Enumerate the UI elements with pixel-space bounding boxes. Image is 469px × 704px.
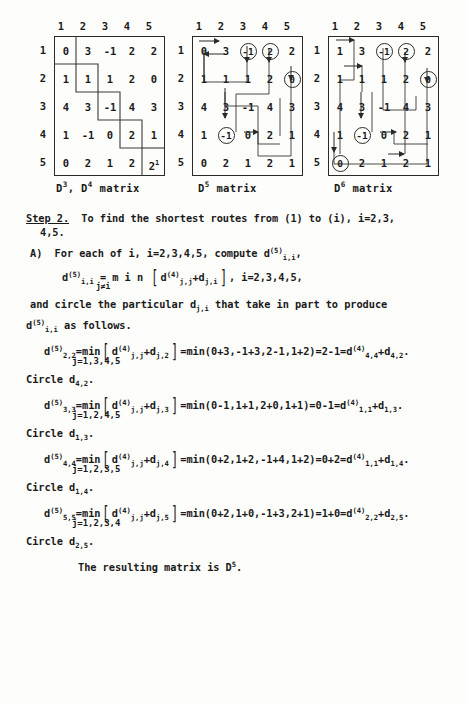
eq-result-sub: 2,2 [365,513,378,522]
circle-post: . [88,481,94,493]
eq-result-plus: +d [378,453,390,465]
matrix-cell: 3 [417,93,439,121]
matrix-cell: 3 [281,93,303,121]
matrix-grid: 0 3 -1 2 2 1 1 1 2 0 4 3 -1 4 3 1 -1 0 2… [192,36,303,176]
circle-pre: Circle d [26,535,75,547]
matrix-cell: 2 [121,37,143,65]
matrix-cell: 2 [395,149,417,177]
eq-plus-sub: j,2 [156,351,169,360]
eq-lhs-sub: i,i [81,277,94,286]
matrix-cell: -1 [99,37,121,65]
matrix-cell-circled: 2 [395,37,417,65]
follows-sub: i,i [45,325,58,334]
matrix-cell: 1 [329,37,351,65]
matrix-cell: 4 [329,93,351,121]
matrix-cell: 2 [215,149,237,177]
circle-post: that take in part to produce [209,298,387,310]
follows-sup: (5) [32,318,45,327]
matrix-cell: 2 [281,37,303,65]
matrix-figures: 1 2 3 4 5 1 2 3 4 5 0 3 -1 2 2 1 [0,18,469,208]
matrix-cell-circled: 0 [417,65,439,93]
eq-expansion: =min(0+3,-1+3,2-1,1+2)=2-1=d [180,345,352,357]
col-header: 4 [258,18,272,34]
matrix-cell: 1 [215,65,237,93]
matrix-cell: 1 [99,65,121,93]
matrix-cell: 2 [121,121,143,149]
circle-sub: 1,3 [75,433,88,442]
matrix-cell-circled: -1 [215,121,237,149]
matrix-cell: 4 [259,93,281,121]
eq-lhs-sup: (5) [50,506,63,515]
matrix-cell: 1 [281,149,303,177]
follows-text: as follows. [58,319,132,331]
matrix-cell: 2 [259,121,281,149]
matrix-cell: 0 [237,121,259,149]
col-header: 3 [236,18,250,34]
eq-plus: +d [144,453,156,465]
col-header: 5 [142,18,156,34]
matrix-cell: 2 [77,149,99,177]
matrix-cell: 1 [55,65,77,93]
follows-line: d(5)i,i as follows. [26,316,132,336]
part-a-end: , [296,247,302,259]
matrix-cell: 3 [143,93,165,121]
matrix-cell-circled: 2 [259,37,281,65]
eq-plus: +d [144,507,156,519]
matrix-cell: 1 [417,121,439,149]
eq-expansion: =min(0+2,1+2,-1+4,1+2)=0+2=d [180,453,352,465]
bracket-close-icon: ] [171,399,178,412]
eq-inner2-sub: j,i [205,277,218,286]
matrix-cell: 1 [281,121,303,149]
matrix-grid: 1 3 -1 2 2 1 1 1 2 0 4 3 -1 4 3 1 -1 0 2… [328,36,439,176]
caption-part: , D [68,182,88,194]
caption-part: matrix [346,182,393,194]
matrix-cell: 2 [143,37,165,65]
eq-tail: , i=2,3,4,5, [229,271,303,283]
eq-inner-sub: j,j [131,513,144,522]
row-header: 5 [310,155,324,169]
matrix-cell: 21 [143,149,165,177]
matrix-cell: 3 [77,93,99,121]
step-label: Step 2. [26,212,69,224]
row-header: 4 [174,127,188,141]
eq-j-range: j=1,2,3,5 [72,463,120,476]
matrix-cell: 3 [351,93,373,121]
eq-plus-sub: j,4 [156,459,169,468]
bracket-close-icon: ] [171,453,178,466]
matrix-cell: -1 [99,93,121,121]
col-header: 3 [372,18,386,34]
row-header: 5 [174,155,188,169]
row-header: 3 [36,99,50,113]
eq-plus: +d [144,345,156,357]
circle-sub: 1,4 [75,487,88,496]
matrix-cell: 2 [259,149,281,177]
matrix-grid: 0 3 -1 2 2 1 1 1 2 0 4 3 -1 4 3 1 -1 [54,36,165,176]
matrix-cell: 1 [99,149,121,177]
matrix-cell: 2 [259,65,281,93]
bracket-close-icon: ] [171,345,178,358]
matrix-cell: 3 [77,37,99,65]
col-header: 1 [192,18,206,34]
circle-sub: j,i [196,304,209,313]
eq-min-condition: j≠i [96,280,110,293]
step-line-1: To find the shortest routes from (1) to … [69,212,395,224]
matrix-cell: -1 [237,93,259,121]
eq-period: . [403,345,409,357]
matrix-cell-circled: 0 [329,149,351,177]
circle-result-line: Circle d1,3. [26,427,94,444]
eq-result-plus-sub: 2,5 [390,513,403,522]
eq-plus-sub: j,3 [156,405,169,414]
eq-inner-sup: (4) [118,398,131,407]
eq-expansion: =min(0+2,1+0,-1+3,2+1)=1+0=d [180,507,352,519]
circle-pre: and circle the particular d [30,298,196,310]
eq-inner-sup: (4) [167,270,180,279]
col-header: 1 [54,18,68,34]
eq-result-plus: +d [378,507,390,519]
col-header: 3 [98,18,112,34]
matrix-cell: 1 [193,121,215,149]
circle-sub: 2,5 [75,541,88,550]
row-header: 4 [310,127,324,141]
row-header: 2 [174,71,188,85]
eq-result-plus-sub: 4,2 [390,351,403,360]
matrix-cell: 4 [55,93,77,121]
